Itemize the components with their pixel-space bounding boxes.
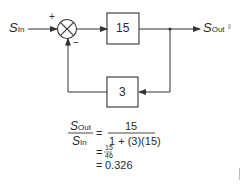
equals-sign-1: = [96, 127, 102, 139]
lhs-denominator-subscript: In [80, 138, 87, 147]
rhs1-denominator: 1 + (3)(15) [109, 135, 161, 147]
rhs2-numerator: 15 [105, 144, 113, 151]
lhs-numerator-subscript: Out [78, 123, 91, 132]
rhs2-denominator: 46 [105, 152, 113, 159]
rhs1-numerator: 15 [125, 120, 137, 132]
output-label: SOut [203, 20, 225, 35]
input-label: SIn [9, 20, 24, 35]
equals-sign-3: = [96, 159, 102, 171]
minus-sign: − [73, 37, 79, 48]
lhs-denominator-symbol: S [72, 134, 80, 148]
input-subscript: In [18, 25, 25, 34]
lhs-numerator: SOut [70, 119, 91, 133]
scan-artifact-mark [228, 24, 231, 29]
forward-block-gain: 15 [116, 21, 129, 35]
feedback-takeoff-line [139, 29, 170, 92]
output-subscript: Out [212, 25, 225, 34]
lhs-denominator: SIn [72, 134, 87, 148]
output-symbol: S [203, 20, 212, 35]
equals-sign-2: = [96, 146, 102, 158]
feedback-block-gain: 3 [119, 85, 126, 99]
plus-sign: + [49, 11, 55, 22]
summing-junction-icon [58, 20, 77, 39]
rhs3-result: 0.326 [105, 159, 133, 171]
input-symbol: S [9, 20, 18, 35]
lhs-numerator-symbol: S [70, 119, 78, 133]
